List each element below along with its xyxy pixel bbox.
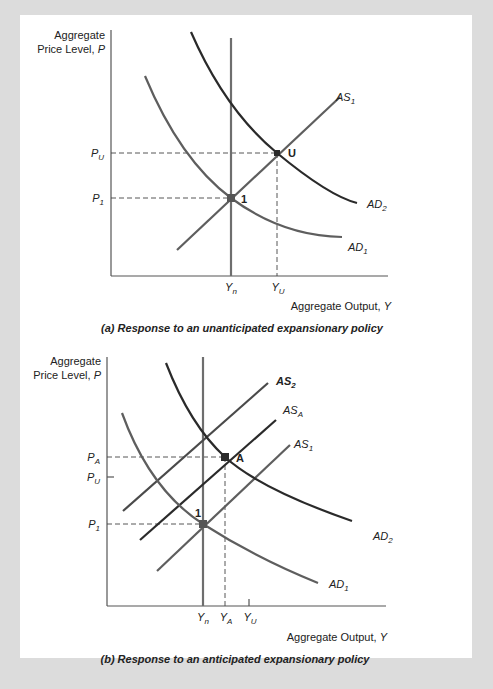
- chart-b-label-ad2: AD2: [372, 530, 393, 545]
- chart-a: Aggregate Price Level, P 1 U PU P1 Yn YU…: [37, 29, 392, 334]
- chart-b-ad1-curve: [122, 413, 318, 583]
- chart-b-point-1: [199, 520, 207, 528]
- chart-b-caption: (b) Response to an anticipated expansion…: [101, 653, 371, 665]
- chart-b-y-title-line2: Price Level, P: [33, 369, 102, 381]
- chart-a-point-u-label: U: [288, 147, 296, 159]
- chart-b-y-title-line1: Aggregate: [50, 355, 101, 367]
- chart-b-label-ad1: AD1: [328, 578, 349, 593]
- chart-a-point-u: [274, 150, 280, 156]
- chart-b-label-p1: P1: [88, 518, 100, 533]
- chart-a-y-title-line1: Aggregate: [54, 29, 105, 41]
- chart-b-label-asa: ASA: [282, 404, 303, 419]
- chart-a-label-p1: P1: [92, 192, 104, 207]
- figure-canvas: Aggregate Price Level, P 1 U PU P1 Yn YU…: [0, 0, 493, 689]
- chart-b-label-pu: PU: [87, 471, 100, 486]
- chart-a-ad1-curve: [145, 76, 342, 237]
- chart-a-label-as1: AS1: [335, 91, 355, 106]
- chart-a-caption: (a) Response to an unanticipated expansi…: [101, 322, 384, 334]
- chart-a-label-ad1: AD1: [347, 241, 368, 256]
- chart-a-x-title: Aggregate Output, Y: [291, 300, 392, 312]
- chart-b-label-yu: YU: [243, 611, 256, 626]
- chart-b-label-as2: AS2: [275, 375, 296, 390]
- chart-a-y-title-line2: Price Level, P: [37, 43, 106, 55]
- chart-b-label-ya: YA: [220, 611, 233, 626]
- chart-a-as1-curve: [177, 97, 340, 250]
- chart-b-point-1-label: 1: [195, 507, 201, 519]
- chart-a-label-yu: YU: [271, 281, 284, 296]
- chart-b-label-pa: PA: [87, 451, 100, 466]
- chart-b-label-yn: Yn: [197, 611, 209, 626]
- chart-b-label-as1: AS1: [293, 438, 313, 453]
- chart-b-point-a: [221, 453, 229, 461]
- chart-a-label-pu: PU: [91, 147, 104, 162]
- chart-a-label-yn: Yn: [225, 281, 237, 296]
- chart-a-point-1-label: 1: [241, 193, 247, 205]
- chart-b-point-a-label: A: [236, 452, 244, 464]
- chart-a-point-1: [227, 194, 235, 202]
- chart-a-label-ad2: AD2: [366, 198, 387, 213]
- chart-b: Aggregate Price Level, P 1 A PA PU P1 Yn…: [33, 355, 393, 665]
- chart-b-ad2-curve: [166, 363, 352, 521]
- chart-b-x-title: Aggregate Output, Y: [287, 631, 388, 643]
- chart-a-ad2-curve: [191, 32, 357, 203]
